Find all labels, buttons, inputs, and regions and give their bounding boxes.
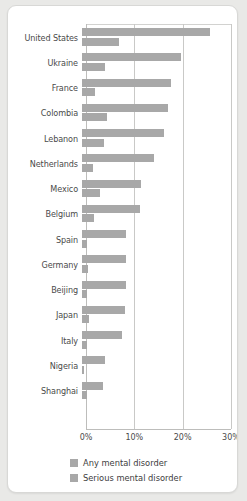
bar-group — [82, 101, 238, 126]
bar-serious — [82, 189, 100, 197]
category-label: Ukraine — [8, 58, 82, 68]
category-label: Netherlands — [8, 159, 82, 169]
bar-any — [82, 281, 126, 289]
bar-any — [82, 382, 103, 390]
category-label: Nigeria — [8, 361, 82, 371]
bar-group — [82, 227, 238, 252]
bar-any — [82, 205, 140, 213]
bar-serious — [82, 38, 119, 46]
bar-serious — [82, 164, 93, 172]
bar-row: Netherlands — [8, 151, 238, 176]
bar-serious — [82, 214, 94, 222]
category-label: Mexico — [8, 184, 82, 194]
bar-any — [82, 129, 164, 137]
bar-any — [82, 28, 210, 36]
bar-group — [82, 252, 238, 277]
bar-row: Nigeria — [8, 353, 238, 378]
bar-any — [82, 255, 126, 263]
x-tick-label: 20% — [174, 433, 192, 442]
bar-any — [82, 331, 122, 339]
bar-serious — [82, 139, 104, 147]
x-axis-line — [86, 429, 231, 430]
bar-any — [82, 53, 181, 61]
bar-any — [82, 79, 171, 87]
category-label: Colombia — [8, 108, 82, 118]
legend-swatch-icon — [70, 474, 78, 482]
chart-plot-area: United StatesUkraineFranceColombiaLebano… — [8, 6, 238, 436]
bar-row: Shanghai — [8, 379, 238, 404]
bar-serious — [82, 391, 87, 399]
legend-swatch-icon — [70, 459, 78, 467]
bar-any — [82, 180, 141, 188]
category-label: France — [8, 83, 82, 93]
x-tick-label: 0% — [80, 433, 93, 442]
bar-row: Ukraine — [8, 50, 238, 75]
legend-label: Serious mental disorder — [83, 473, 182, 483]
bar-group — [82, 126, 238, 151]
bar-any — [82, 154, 154, 162]
category-label: United States — [8, 33, 82, 43]
legend-item[interactable]: Any mental disorder — [8, 455, 238, 470]
chart-legend: Any mental disorderSerious mental disord… — [8, 455, 238, 485]
bar-serious — [82, 341, 87, 349]
bar-row: France — [8, 76, 238, 101]
bar-row: Germany — [8, 252, 238, 277]
bar-serious — [82, 366, 84, 374]
bar-group — [82, 151, 238, 176]
bar-group — [82, 303, 238, 328]
bar-group — [82, 202, 238, 227]
bar-any — [82, 104, 168, 112]
bar-group — [82, 177, 238, 202]
bar-row: Spain — [8, 227, 238, 252]
bar-row: Italy — [8, 328, 238, 353]
x-tick-label: 10% — [125, 433, 143, 442]
category-label: Belgium — [8, 209, 82, 219]
x-axis-tick-labels: 0%10%20%30% — [8, 433, 238, 447]
bar-row: United States — [8, 25, 238, 50]
bar-serious — [82, 315, 89, 323]
category-label: Lebanon — [8, 134, 82, 144]
bar-serious — [82, 88, 95, 96]
bar-row: Mexico — [8, 177, 238, 202]
bar-row: Colombia — [8, 101, 238, 126]
bar-any — [82, 306, 125, 314]
category-label: Spain — [8, 235, 82, 245]
bar-group — [82, 353, 238, 378]
bar-group — [82, 278, 238, 303]
bar-any — [82, 230, 126, 238]
bar-group — [82, 25, 238, 50]
bar-group — [82, 76, 238, 101]
bar-serious — [82, 240, 87, 248]
bar-group — [82, 379, 238, 404]
category-label: Beijing — [8, 285, 82, 295]
bar-row: Beijing — [8, 278, 238, 303]
bar-serious — [82, 113, 107, 121]
bar-serious — [82, 265, 88, 273]
bar-group — [82, 328, 238, 353]
bar-row: Belgium — [8, 202, 238, 227]
category-label: Japan — [8, 310, 82, 320]
category-label: Shanghai — [8, 386, 82, 396]
category-label: Germany — [8, 260, 82, 270]
category-label: Italy — [8, 336, 82, 346]
bar-group — [82, 50, 238, 75]
bar-any — [82, 356, 105, 364]
bar-row: Lebanon — [8, 126, 238, 151]
legend-item[interactable]: Serious mental disorder — [8, 470, 238, 485]
chart-card: United StatesUkraineFranceColombiaLebano… — [7, 5, 238, 493]
bar-row: Japan — [8, 303, 238, 328]
bar-rows: United StatesUkraineFranceColombiaLebano… — [8, 25, 238, 429]
x-tick-label: 30% — [222, 433, 238, 442]
legend-label: Any mental disorder — [83, 458, 167, 468]
bar-serious — [82, 290, 87, 298]
bar-serious — [82, 63, 105, 71]
